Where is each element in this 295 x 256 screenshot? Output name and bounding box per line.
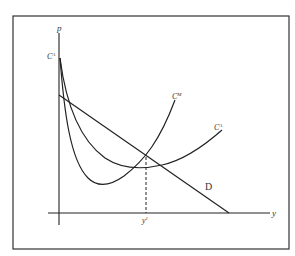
cost-demand-diagram: p y D CM CA CA y1	[0, 0, 295, 256]
y1-label: y1	[141, 216, 148, 225]
figure-frame	[13, 16, 289, 249]
marginal-cost-label: CM	[172, 92, 182, 101]
p-axis-label: p	[56, 23, 62, 33]
demand-label: D	[205, 181, 212, 192]
y-axis-label: y	[271, 208, 276, 218]
demand-line	[59, 95, 229, 213]
average-cost-origin-label: CA	[47, 52, 56, 61]
